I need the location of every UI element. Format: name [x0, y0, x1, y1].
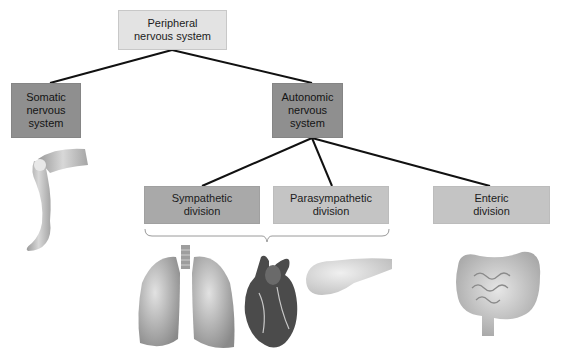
heart-icon — [243, 253, 303, 353]
connector-peripheral-somatic — [50, 50, 172, 83]
brace — [145, 229, 389, 242]
node-parasympathetic-division: Parasympathetic division — [273, 186, 389, 224]
node-peripheral-nervous-system: Peripheral nervous system — [118, 10, 227, 50]
node-enteric-division: Enteric division — [433, 186, 550, 224]
node-autonomic-nervous-system: Autonomic nervous system — [272, 83, 343, 138]
pancreas-icon — [302, 255, 394, 305]
connector-peripheral-autonomic — [172, 50, 312, 83]
connector-autonomic-enteric — [312, 138, 490, 186]
connector-autonomic-parasympathetic — [312, 138, 332, 186]
intestines-icon — [452, 246, 542, 338]
lungs-icon — [136, 243, 236, 353]
connector-autonomic-sympathetic — [202, 138, 312, 186]
node-somatic-nervous-system: Somatic nervous system — [11, 83, 81, 138]
node-sympathetic-division: Sympathetic division — [144, 186, 260, 224]
leg-icon — [10, 143, 90, 253]
